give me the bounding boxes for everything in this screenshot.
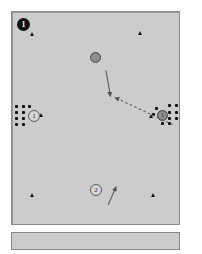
arrow-goal-direction — [115, 97, 173, 124]
arrow-agent-velocity — [106, 70, 111, 96]
arrow-waypoint-2-heading — [108, 187, 116, 205]
lower-status-strip[interactable] — [11, 232, 180, 250]
main-simulation-panel[interactable]: 1 1 — [11, 11, 180, 225]
arrow-overlay — [11, 11, 202, 254]
